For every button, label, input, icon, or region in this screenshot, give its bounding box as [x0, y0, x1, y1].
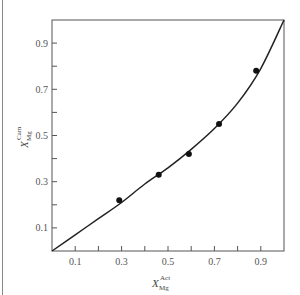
data-point: [253, 68, 259, 74]
x-axis-label: XMgAct: [151, 274, 170, 292]
svg-text:Cam: Cam: [15, 126, 23, 140]
svg-text:Act: Act: [160, 274, 170, 282]
x-tick-label: 0.1: [69, 256, 82, 267]
svg-text:Mg: Mg: [25, 131, 33, 141]
data-point: [156, 172, 162, 178]
y-tick-label: 0.9: [36, 38, 49, 49]
x-tick-label: 0.9: [255, 256, 268, 267]
x-tick-label: 0.5: [162, 256, 175, 267]
data-point: [186, 151, 192, 157]
y-tick-label: 0.1: [36, 222, 49, 233]
y-axis-ticks: 0.10.30.50.70.9: [36, 38, 58, 234]
plot-area: [52, 20, 284, 251]
x-tick-label: 0.3: [115, 256, 128, 267]
x-tick-label: 0.7: [208, 256, 221, 267]
plot-frame: [52, 20, 284, 251]
data-point: [116, 197, 122, 203]
data-point: [216, 121, 222, 127]
y-tick-label: 0.7: [36, 84, 49, 95]
y-tick-label: 0.3: [36, 176, 49, 187]
chart: 0.10.30.50.70.9 0.10.30.50.70.9 XMgAct X…: [0, 0, 300, 295]
y-tick-label: 0.5: [36, 130, 49, 141]
x-axis-ticks: 0.10.30.50.70.9: [69, 246, 267, 267]
svg-text:Mg: Mg: [159, 284, 169, 292]
y-axis-label: XMgCam: [15, 126, 33, 149]
fitted-curve: [52, 20, 284, 251]
